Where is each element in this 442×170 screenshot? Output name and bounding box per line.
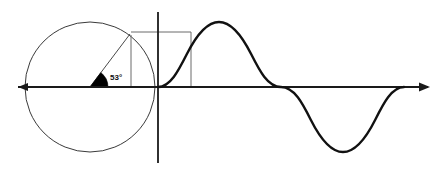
sine-wave-unit-circle-figure: 53° [0, 0, 442, 170]
angle-label: 53° [110, 73, 122, 82]
angle-wedge [90, 73, 108, 87]
axis-arrow-right-icon [419, 83, 430, 92]
figure-canvas: 53° [0, 0, 442, 170]
axis-arrow-left-icon [18, 83, 28, 91]
